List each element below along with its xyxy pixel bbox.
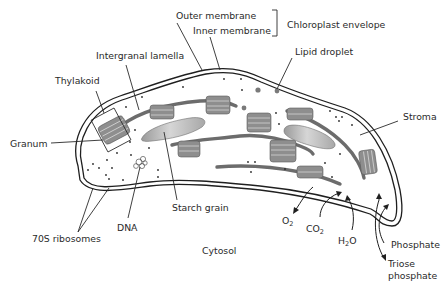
label-ribosomes: 70S ribosomes: [32, 233, 101, 244]
label-granum: Granum: [10, 138, 48, 149]
lipid-droplet: [242, 106, 247, 111]
labels: Outer membrane Inner membrane Chloroplas…: [10, 10, 440, 281]
granum: [287, 108, 313, 120]
starch-grain: [141, 118, 204, 142]
triose-arrow: [375, 200, 384, 258]
label-thylakoid: Thylakoid: [54, 75, 100, 86]
granum-right: [358, 149, 377, 175]
outer-membrane: [76, 69, 402, 226]
label-stroma: Stroma: [403, 111, 437, 122]
label-intergranal-lamella: Intergranal lamella: [96, 50, 184, 61]
granum: [206, 96, 230, 114]
chloroplast-body: [76, 69, 402, 226]
label-chloroplast-envelope: Chloroplast envelope: [287, 19, 386, 30]
label-triose-line1: Triose: [387, 258, 415, 269]
dna: [134, 156, 148, 168]
label-dna: DNA: [117, 222, 138, 233]
label-lipid-droplet: Lipid droplet: [295, 46, 354, 57]
lipid-droplets: [242, 87, 280, 110]
label-inner-membrane: Inner membrane: [193, 25, 271, 36]
lipid-droplet: [275, 89, 280, 94]
chloroplast-diagram: Outer membrane Inner membrane Chloroplas…: [0, 0, 443, 281]
label-phosphate: Phosphate: [391, 239, 440, 250]
label-co2: CO2: [306, 223, 324, 236]
label-starch-grain: Starch grain: [172, 202, 229, 213]
starch-grains: [141, 118, 335, 149]
granum: [150, 105, 174, 119]
label-h2o: H2O: [338, 235, 356, 248]
label-triose-line2: phosphate: [388, 270, 437, 281]
label-cytosol: Cytosol: [202, 245, 236, 256]
label-outer-membrane: Outer membrane: [176, 10, 256, 21]
granum: [247, 113, 271, 132]
granum: [270, 140, 296, 162]
lipid-droplet: [255, 87, 260, 92]
label-o2: O2: [282, 215, 293, 228]
granum: [297, 166, 323, 178]
diagram-canvas: Outer membrane Inner membrane Chloroplas…: [0, 0, 443, 281]
granum: [178, 141, 200, 157]
